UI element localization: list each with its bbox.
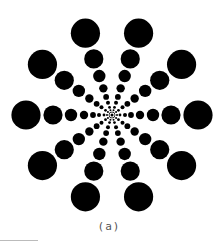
dot <box>73 85 85 97</box>
dot <box>109 119 111 121</box>
dot <box>108 106 111 109</box>
dot <box>130 127 138 135</box>
dot <box>108 121 111 124</box>
dot <box>161 105 180 124</box>
dot <box>28 50 57 79</box>
dot <box>43 105 62 124</box>
dot <box>104 118 107 121</box>
center-dot <box>111 114 114 117</box>
dot <box>183 100 212 129</box>
dot <box>94 123 100 129</box>
dot <box>93 148 105 160</box>
radial-dot-pattern <box>0 0 218 220</box>
dot <box>90 112 96 118</box>
dot <box>106 114 108 116</box>
dot <box>136 111 144 119</box>
dot <box>85 94 93 102</box>
dot <box>118 148 130 160</box>
dot <box>11 100 40 129</box>
dot <box>121 105 125 109</box>
dot <box>117 118 120 121</box>
dot <box>113 119 115 121</box>
dot <box>71 182 100 211</box>
dot <box>84 162 103 181</box>
dot <box>109 109 111 111</box>
dot <box>115 94 121 100</box>
dot <box>113 109 115 111</box>
footer-divider <box>0 240 38 241</box>
dot <box>28 151 57 180</box>
dot <box>107 111 109 113</box>
dot <box>113 106 116 109</box>
dot <box>93 70 105 82</box>
dot <box>103 130 109 136</box>
dot <box>85 127 93 135</box>
dot <box>121 162 140 181</box>
dot <box>99 105 103 109</box>
dot <box>118 70 130 82</box>
dot <box>117 109 120 112</box>
dot <box>99 84 107 92</box>
dot <box>84 49 103 68</box>
dot <box>99 121 103 125</box>
dot <box>94 101 100 107</box>
dot <box>124 123 130 129</box>
dot <box>150 140 169 159</box>
dot <box>73 133 85 145</box>
dot <box>124 19 153 48</box>
dot <box>116 84 124 92</box>
dot <box>114 101 118 105</box>
dot <box>104 109 107 112</box>
dot <box>103 94 109 100</box>
dot <box>124 182 153 211</box>
dot <box>147 109 159 121</box>
dot <box>115 130 121 136</box>
spoke <box>116 100 213 129</box>
dot <box>114 125 118 129</box>
dot <box>124 101 130 107</box>
dot <box>128 112 134 118</box>
dot <box>55 71 74 90</box>
dot <box>99 137 107 145</box>
dot <box>150 71 169 90</box>
dot <box>119 114 122 117</box>
dot <box>55 140 74 159</box>
dot <box>130 94 138 102</box>
dot <box>139 133 151 145</box>
dot <box>65 109 77 121</box>
dot <box>139 85 151 97</box>
dot <box>71 19 100 48</box>
dot <box>115 111 117 113</box>
dot <box>121 49 140 68</box>
dot <box>106 101 110 105</box>
spokes-group <box>11 19 212 212</box>
dot <box>80 111 88 119</box>
dot <box>113 121 116 124</box>
dot <box>121 121 125 125</box>
dot <box>116 114 118 116</box>
dot <box>103 114 106 117</box>
dot <box>116 137 124 145</box>
dot <box>107 117 109 119</box>
spoke <box>11 100 108 129</box>
dot <box>115 117 117 119</box>
dot <box>97 113 101 117</box>
dot <box>167 50 196 79</box>
dot <box>123 113 127 117</box>
dot <box>167 151 196 180</box>
figure-caption: (a) <box>0 220 218 233</box>
dot <box>106 125 110 129</box>
